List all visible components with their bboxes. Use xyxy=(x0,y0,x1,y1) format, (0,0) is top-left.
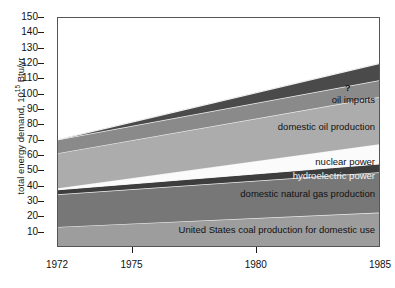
y-tick-mark-70 xyxy=(38,140,44,141)
y-tick-text: 110 xyxy=(14,73,38,83)
y-tick-mark-110 xyxy=(38,78,44,79)
y-tick-mark-30 xyxy=(38,201,44,202)
y-tick-mark-60 xyxy=(38,155,44,156)
plot-area xyxy=(57,17,380,247)
band-label-nuclear-power: nuclear power xyxy=(315,156,375,167)
y-tick-mark-10 xyxy=(38,232,44,233)
x-tick-label-1980: 1980 xyxy=(245,259,267,270)
unmet-demand-question-mark: ? xyxy=(345,83,351,93)
y-tick-text: 60 xyxy=(14,150,38,160)
y-tick-text: 140 xyxy=(14,27,38,37)
y-tick-text: 30 xyxy=(14,196,38,206)
x-tick-mark-1980 xyxy=(256,247,257,253)
band-label-United-States-coal-production-for-domestic-use: United States coal production for domest… xyxy=(179,224,375,235)
band-label-domestic-natural-gas-production: domestic natural gas production xyxy=(240,188,375,199)
y-tick-text: 150 xyxy=(14,12,38,22)
y-tick-mark-20 xyxy=(38,216,44,217)
x-tick-label-1975: 1975 xyxy=(120,259,142,270)
band-label-domestic-oil-production: domestic oil production xyxy=(278,120,375,131)
y-tick-mark-40 xyxy=(38,186,44,187)
band-label-oil-imports: oil imports xyxy=(332,94,375,105)
x-tick-label-1985: 1985 xyxy=(369,259,391,270)
y-tick-mark-100 xyxy=(38,94,44,95)
y-tick-mark-90 xyxy=(38,109,44,110)
y-tick-text: 90 xyxy=(14,104,38,114)
energy-demand-stacked-area-chart: total energy demand, 1015 Btu/yr 1020304… xyxy=(0,0,395,288)
stacked-area-svg xyxy=(58,18,379,246)
y-tick-mark-120 xyxy=(38,63,44,64)
y-tick-mark-80 xyxy=(38,124,44,125)
y-tick-mark-50 xyxy=(38,170,44,171)
y-tick-text: 40 xyxy=(14,181,38,191)
x-tick-mark-1975 xyxy=(132,247,133,253)
y-tick-text: 80 xyxy=(14,119,38,129)
y-tick-mark-130 xyxy=(38,48,44,49)
y-tick-text: 120 xyxy=(14,58,38,68)
band-label-hydroelectric-power: hydroelectric power xyxy=(293,169,375,180)
y-tick-text: 130 xyxy=(14,43,38,53)
y-tick-mark-140 xyxy=(38,32,44,33)
y-tick-text: 100 xyxy=(14,89,38,99)
y-tick-text: 50 xyxy=(14,165,38,175)
y-tick-text: 70 xyxy=(14,135,38,145)
y-tick-text: 10 xyxy=(14,227,38,237)
y-tick-mark-150 xyxy=(38,17,44,18)
y-tick-text: 20 xyxy=(14,211,38,221)
x-tick-label-1972: 1972 xyxy=(46,259,68,270)
